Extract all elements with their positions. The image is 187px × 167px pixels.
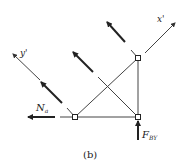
force-arrow-3 xyxy=(107,22,125,42)
force-arrow-2 xyxy=(73,52,93,72)
x-prime-axis xyxy=(145,23,175,53)
joint-left xyxy=(73,115,78,120)
truss xyxy=(60,50,138,117)
x-prime-label: x' xyxy=(157,14,165,24)
y-prime-label: y' xyxy=(19,48,28,58)
force-arrow-1 xyxy=(41,82,62,103)
joint-top xyxy=(136,56,141,61)
na-label: Na xyxy=(35,102,49,114)
fby-label: FBY xyxy=(141,129,158,141)
figure-caption: (b) xyxy=(83,149,97,160)
joint-bottom-right xyxy=(136,115,141,120)
free-body-diagram: x' y' Na FBY (b) xyxy=(0,0,187,167)
member-diagonal-down xyxy=(98,77,138,117)
